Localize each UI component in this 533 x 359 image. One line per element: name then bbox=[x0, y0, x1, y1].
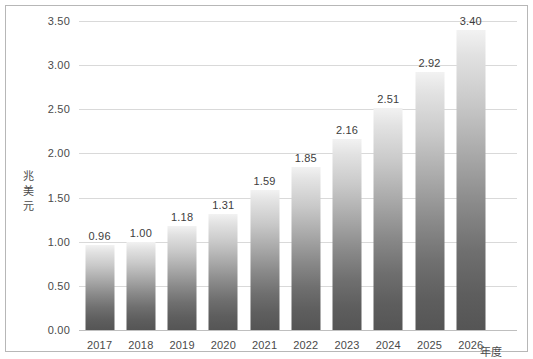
y-axis-tick-label: 1.00 bbox=[48, 236, 70, 248]
bar-group[interactable]: 0.962017 bbox=[79, 21, 120, 330]
x-axis-tick-label: 2026 bbox=[458, 339, 483, 351]
bar-value-label: 1.31 bbox=[212, 199, 234, 211]
y-axis-tick-label: 1.50 bbox=[48, 192, 70, 204]
y-axis-tick-label: 2.00 bbox=[48, 147, 70, 159]
bar-group[interactable]: 1.312020 bbox=[203, 21, 244, 330]
x-axis-tick-label: 2017 bbox=[87, 339, 112, 351]
bar-value-label: 2.51 bbox=[377, 93, 399, 105]
bar[interactable] bbox=[456, 30, 485, 330]
y-axis-title: 兆美元 bbox=[20, 169, 36, 214]
plot-area: 0.000.501.001.502.002.503.003.50 0.96201… bbox=[79, 21, 517, 330]
bar[interactable] bbox=[85, 245, 114, 330]
y-axis-tick-label: 0.50 bbox=[48, 280, 70, 292]
x-axis-tick-label: 2024 bbox=[376, 339, 401, 351]
bar-series: 0.9620171.0020181.1820191.3120201.592021… bbox=[79, 21, 517, 330]
y-axis-tick-label: 0.00 bbox=[48, 324, 70, 336]
x-axis-tick-label: 2020 bbox=[211, 339, 236, 351]
bar[interactable] bbox=[168, 226, 197, 330]
gridline bbox=[79, 330, 517, 331]
x-axis-tick-label: 2022 bbox=[293, 339, 318, 351]
bar-value-label: 3.40 bbox=[460, 15, 482, 27]
bar[interactable] bbox=[374, 108, 403, 330]
bar[interactable] bbox=[333, 139, 362, 330]
y-axis-tick-label: 2.50 bbox=[48, 103, 70, 115]
bar-group[interactable]: 2.922025 bbox=[409, 21, 450, 330]
y-axis-tick-label: 3.00 bbox=[48, 59, 70, 71]
bar[interactable] bbox=[209, 214, 238, 330]
bar-value-label: 2.16 bbox=[336, 124, 358, 136]
bar-value-label: 1.18 bbox=[171, 211, 193, 223]
bar-value-label: 0.96 bbox=[89, 230, 111, 242]
bar-value-label: 2.92 bbox=[418, 57, 440, 69]
bar[interactable] bbox=[126, 242, 155, 330]
bar-group[interactable]: 1.852022 bbox=[285, 21, 326, 330]
x-axis-tick-label: 2025 bbox=[417, 339, 442, 351]
bar-group[interactable]: 3.402026 bbox=[450, 21, 491, 330]
x-axis-tick-label: 2023 bbox=[334, 339, 359, 351]
bar-value-label: 1.85 bbox=[295, 152, 317, 164]
x-axis-tick-label: 2018 bbox=[128, 339, 153, 351]
bar-group[interactable]: 1.592021 bbox=[244, 21, 285, 330]
bar-group[interactable]: 2.512024 bbox=[368, 21, 409, 330]
bar[interactable] bbox=[415, 72, 444, 330]
bar-value-label: 1.59 bbox=[253, 175, 275, 187]
bar[interactable] bbox=[291, 167, 320, 330]
x-axis-tick-label: 2021 bbox=[252, 339, 277, 351]
chart-frame: 兆美元 年度 0.000.501.001.502.002.503.003.50 … bbox=[5, 5, 528, 352]
bar-group[interactable]: 1.002018 bbox=[120, 21, 161, 330]
bar[interactable] bbox=[250, 190, 279, 330]
bar-group[interactable]: 1.182019 bbox=[161, 21, 202, 330]
bar-group[interactable]: 2.162023 bbox=[326, 21, 367, 330]
x-axis-tick-label: 2019 bbox=[169, 339, 194, 351]
bar-value-label: 1.00 bbox=[130, 227, 152, 239]
y-axis-tick-label: 3.50 bbox=[48, 15, 70, 27]
